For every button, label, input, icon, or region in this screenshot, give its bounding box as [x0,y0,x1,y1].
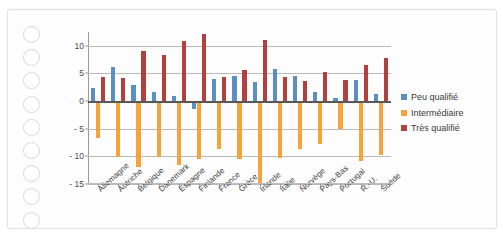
binding-hole [23,72,40,89]
bar [374,94,378,101]
binding-hole [23,142,40,159]
legend-item-peu-qualifie[interactable]: Peu qualifié [401,92,501,102]
chart-legend: Peu qualifié Intermédiaire Très qualifié [401,92,501,139]
bar [222,77,226,101]
bar-group: Norvège [290,32,310,184]
y-axis-tick-label: - 5 [74,124,84,134]
bar-group: Finlande [189,32,209,184]
bar [283,77,287,101]
notebook-page-card: 1050- 5- 10- 15AllemagneAutricheBelgique… [7,9,497,229]
x-axis-line [88,183,391,184]
bar [136,101,140,167]
bar [91,88,95,101]
bar [258,101,262,183]
legend-swatch-icon [401,94,407,100]
bar [364,65,368,101]
bar [202,34,206,101]
legend-swatch-icon [401,110,407,116]
page-root: 1050- 5- 10- 15AllemagneAutricheBelgique… [0,0,503,233]
y-axis-tick-label: 5 [79,68,84,78]
y-axis-tick-label: 10 [75,41,84,51]
y-axis-tick-label: - 10 [69,151,84,161]
bar [101,77,105,101]
legend-label: Intermédiaire [411,108,464,118]
bar-group: Autriche [108,32,128,184]
bar [152,92,156,101]
bar [278,101,282,158]
y-axis-tick-label: - 15 [69,179,84,189]
bar-group: Danemark [149,32,169,184]
legend-label: Très qualifié [411,123,460,133]
bar [273,69,277,101]
bar [232,76,236,101]
bar [237,101,241,158]
bar [111,67,115,101]
bar-group: Espagne [169,32,189,184]
bar [242,70,246,102]
binding-hole [23,49,40,66]
zero-axis-line [88,101,391,103]
bar-group: Pays-Bas [310,32,330,184]
bar [162,55,166,101]
bar [197,101,201,159]
y-axis-tick-label: 0 [79,96,84,106]
legend-label: Peu qualifié [411,92,458,102]
bar [338,101,342,129]
binding-hole [23,188,40,205]
bar [96,101,100,138]
bar [298,101,302,149]
bar [379,101,383,155]
bar [343,80,347,102]
bar-group: R.-U. [351,32,371,184]
bar-group: Irlande [250,32,270,184]
bar [217,101,221,149]
binding-hole [23,26,40,43]
bar [354,80,358,102]
bar [303,81,307,101]
bar [141,51,145,101]
bar-group: Portugal [330,32,350,184]
bar [359,101,363,161]
bar-group: Belgique [128,32,148,184]
bar [157,101,161,157]
plot-area: 1050- 5- 10- 15AllemagneAutricheBelgique… [88,32,391,184]
binding-hole [23,212,40,229]
bar-group: Grèce [229,32,249,184]
bar [116,101,120,157]
bar [212,79,216,101]
bar [384,58,388,101]
bar-chart: 1050- 5- 10- 15AllemagneAutricheBelgique… [56,24,501,233]
binding-hole [23,165,40,182]
bar [293,76,297,101]
bar [177,101,181,165]
legend-item-tres-qualifie[interactable]: Très qualifié [401,123,501,133]
binding-hole [23,96,40,113]
bar [318,101,322,144]
bar-group: France [209,32,229,184]
bar [263,40,267,101]
legend-item-intermediaire[interactable]: Intermédiaire [401,108,501,118]
bar-group: Italie [270,32,290,184]
binding-hole [23,119,40,136]
bar [182,41,186,101]
bar [253,82,257,101]
legend-swatch-icon [401,125,407,131]
bar [313,92,317,101]
spiral-binding-holes [21,26,45,226]
bar-group: Suède [371,32,391,184]
bar [131,85,135,102]
bar-group: Allemagne [88,32,108,184]
bar [121,78,125,101]
cropped-header-text [120,0,360,7]
bar [323,72,327,101]
